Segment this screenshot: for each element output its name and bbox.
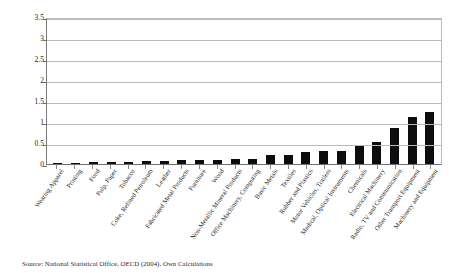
source-note: Source: National Statistical Office, OEC…: [22, 260, 213, 267]
gridline: [47, 19, 441, 20]
gridline: [47, 61, 441, 62]
y-axis-tick-labels: 00.511.522.533.5: [18, 18, 44, 165]
bar: [160, 161, 169, 164]
gridline: [47, 103, 441, 104]
y-axis-tick-label: 0.5: [34, 140, 44, 147]
y-axis-tick: [43, 40, 47, 41]
gridline: [47, 145, 441, 146]
bar: [195, 160, 204, 164]
bar: [266, 155, 275, 164]
bar: [231, 159, 240, 164]
x-axis-tick-label: Furniture: [188, 168, 208, 192]
bar: [319, 151, 328, 164]
y-axis-tick-label: 0: [40, 161, 44, 168]
gridline: [47, 124, 441, 125]
gridline: [47, 82, 441, 83]
y-axis-tick: [43, 19, 47, 20]
y-axis-tick: [43, 61, 47, 62]
x-axis-tick-label: Food: [88, 168, 102, 183]
bar: [355, 145, 364, 164]
bar: [124, 162, 133, 164]
chart-figure: 00.511.522.533.5 Wearing ApparelPrinting…: [0, 0, 449, 273]
y-axis-tick-label: 1.5: [34, 98, 44, 105]
y-axis-tick: [43, 124, 47, 125]
bar: [301, 152, 310, 164]
y-axis-tick-label: 3: [40, 35, 44, 42]
plot-area: [46, 18, 442, 165]
bar: [53, 163, 62, 164]
y-axis-tick-label: 2.5: [34, 56, 44, 63]
bar: [248, 159, 257, 164]
bar: [142, 161, 151, 164]
y-axis-tick: [43, 103, 47, 104]
y-axis-tick: [43, 145, 47, 146]
y-axis-tick: [43, 82, 47, 83]
bar: [213, 160, 222, 164]
bar: [284, 155, 293, 164]
y-axis-tick-label: 3.5: [34, 14, 44, 21]
bar: [89, 162, 98, 164]
x-axis-tick-label: Printing: [65, 168, 83, 190]
gridline: [47, 40, 441, 41]
bar: [390, 128, 399, 164]
y-axis-tick-label: 1: [40, 119, 44, 126]
x-axis-tick-labels: Wearing ApparelPrintingFoodPulp, PaperTo…: [46, 168, 442, 253]
bar: [71, 163, 80, 164]
x-axis-tick-label: Wood: [211, 168, 226, 185]
bar: [177, 160, 186, 164]
bar: [425, 112, 434, 165]
x-axis-tick-label: Wearing Apparel: [34, 168, 66, 209]
bar: [107, 162, 116, 164]
plot-wrapper: 00.511.522.533.5 Wearing ApparelPrinting…: [0, 0, 449, 180]
bar: [337, 151, 346, 164]
y-axis-tick-label: 2: [40, 77, 44, 84]
